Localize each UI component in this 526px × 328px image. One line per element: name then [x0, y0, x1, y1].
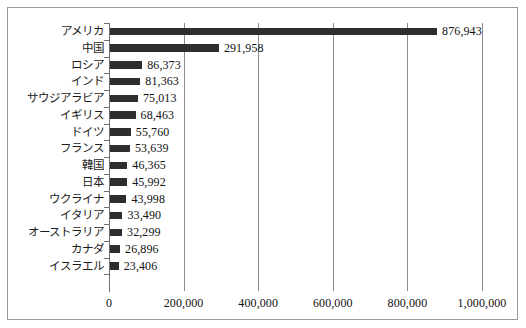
bar-row: 68,463 — [109, 107, 482, 124]
y-axis-tick — [104, 174, 109, 175]
category-label: ドイツ — [0, 124, 104, 141]
category-label: サウジアラビア — [0, 90, 104, 107]
bar-row: 291,958 — [109, 40, 482, 57]
bar[interactable] — [110, 44, 219, 52]
y-axis-tick — [104, 224, 109, 225]
bar[interactable] — [110, 111, 136, 119]
category-label: オーストラリア — [0, 224, 104, 241]
bar-value-label: 55,760 — [136, 124, 170, 141]
x-axis-tick-label: 0 — [106, 296, 112, 310]
y-axis-tick — [104, 124, 109, 125]
bar-row: 876,943 — [109, 23, 482, 40]
bar-value-label: 32,299 — [127, 224, 161, 241]
bar[interactable] — [110, 128, 131, 136]
bar-row: 23,406 — [109, 258, 482, 275]
bar-value-label: 43,998 — [131, 191, 165, 208]
bar-row: 46,365 — [109, 157, 482, 174]
bar[interactable] — [110, 28, 437, 36]
bar[interactable] — [110, 178, 127, 186]
y-axis-tick — [104, 274, 109, 275]
bar-row: 55,760 — [109, 124, 482, 141]
bar-row: 45,992 — [109, 174, 482, 191]
category-label: 中国 — [0, 40, 104, 57]
category-label: ロシア — [0, 57, 104, 74]
bar-value-label: 26,896 — [125, 241, 159, 258]
bar-value-label: 876,943 — [442, 23, 482, 40]
bar[interactable] — [110, 262, 119, 270]
bar-row: 26,896 — [109, 241, 482, 258]
y-axis-line — [109, 23, 110, 292]
x-axis-tick-label: 800,000 — [388, 296, 428, 310]
category-label: フランス — [0, 140, 104, 157]
x-axis-tick-label: 600,000 — [313, 296, 353, 310]
bar[interactable] — [110, 95, 138, 103]
category-label: イタリア — [0, 207, 104, 224]
bar-value-label: 23,406 — [124, 258, 158, 275]
bar[interactable] — [110, 61, 142, 69]
bar[interactable] — [110, 78, 140, 86]
category-label: アメリカ — [0, 23, 104, 40]
bar[interactable] — [110, 229, 122, 237]
y-axis-tick — [104, 207, 109, 208]
bar-value-label: 33,490 — [127, 207, 161, 224]
x-axis-tick-label: 1,000,000 — [458, 296, 507, 310]
bar-row: 53,639 — [109, 140, 482, 157]
bar-value-label: 68,463 — [141, 107, 175, 124]
y-axis-tick — [104, 157, 109, 158]
bar-value-label: 81,363 — [145, 73, 179, 90]
category-label: イギリス — [0, 107, 104, 124]
gridline — [482, 23, 483, 291]
y-axis-tick — [104, 241, 109, 242]
category-label: 韓国 — [0, 157, 104, 174]
y-axis-tick — [104, 57, 109, 58]
bar-value-label: 75,013 — [143, 90, 177, 107]
category-label: ウクライナ — [0, 191, 104, 208]
bar-row: 86,373 — [109, 57, 482, 74]
y-axis-tick — [104, 258, 109, 259]
category-label: 日本 — [0, 174, 104, 191]
bar[interactable] — [110, 145, 130, 153]
bar[interactable] — [110, 212, 122, 220]
bar-row: 32,299 — [109, 224, 482, 241]
y-axis-tick — [104, 107, 109, 108]
y-axis-tick — [104, 191, 109, 192]
bar-row: 43,998 — [109, 191, 482, 208]
bar[interactable] — [110, 162, 127, 170]
bar-value-label: 86,373 — [147, 57, 181, 74]
bar-value-label: 53,639 — [135, 140, 169, 157]
bar-row: 75,013 — [109, 90, 482, 107]
bar-value-label: 291,958 — [224, 40, 264, 57]
y-axis-tick — [104, 23, 109, 24]
bar[interactable] — [110, 245, 120, 253]
category-label: カナダ — [0, 241, 104, 258]
plot-area: 876,943291,95886,37381,36375,01368,46355… — [109, 23, 482, 291]
bar-row: 81,363 — [109, 73, 482, 90]
y-axis-tick — [104, 40, 109, 41]
chart-figure: 876,943291,95886,37381,36375,01368,46355… — [7, 7, 518, 320]
category-label: イスラエル — [0, 258, 104, 275]
bar[interactable] — [110, 195, 126, 203]
x-axis-tick-label: 400,000 — [238, 296, 278, 310]
category-label: インド — [0, 73, 104, 90]
bar-row: 33,490 — [109, 207, 482, 224]
y-axis-tick — [104, 73, 109, 74]
bar-value-label: 46,365 — [132, 157, 166, 174]
y-axis-tick — [104, 90, 109, 91]
y-axis-tick — [104, 140, 109, 141]
x-axis-tick-label: 200,000 — [164, 296, 204, 310]
bar-value-label: 45,992 — [132, 174, 166, 191]
